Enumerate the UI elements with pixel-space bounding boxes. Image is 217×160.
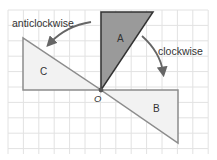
- triangle-a-label: A: [117, 33, 124, 44]
- triangle-b-label: B: [153, 103, 160, 114]
- triangle-a: [101, 12, 153, 90]
- clockwise-label: clockwise: [158, 45, 203, 57]
- anticlockwise-label: anticlockwise: [12, 17, 74, 29]
- origin-label: O: [94, 93, 102, 104]
- triangle-b: [101, 90, 178, 143]
- diagram-canvas: A B C O clockwise anticlockwise: [0, 0, 217, 160]
- rotation-diagram: A B C O clockwise anticlockwise: [0, 0, 217, 160]
- triangle-c-label: C: [40, 66, 47, 77]
- origin-point: [99, 88, 104, 93]
- triangle-c: [23, 38, 101, 90]
